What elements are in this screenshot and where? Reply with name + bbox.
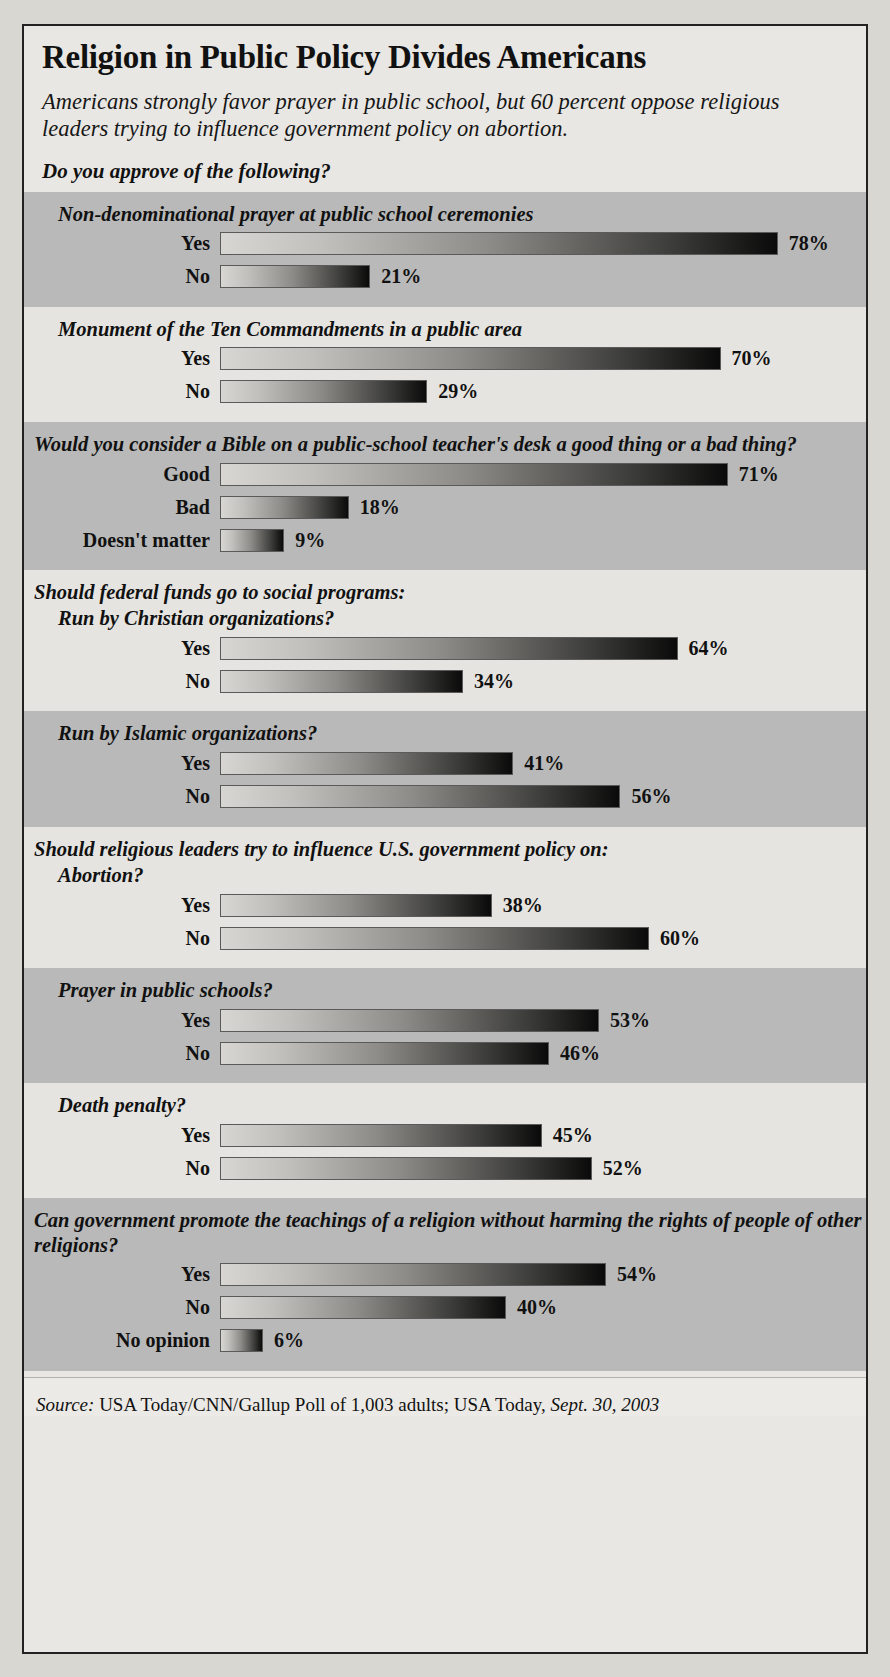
bar-category-label: Yes xyxy=(24,1009,220,1032)
source-date: Sept. 30, 2003 xyxy=(551,1394,660,1415)
bar-rows: Good71%Bad18%Doesn't matter9% xyxy=(24,459,866,555)
bar-category-label: No xyxy=(24,265,220,288)
bar-row: No56% xyxy=(24,782,866,812)
bar xyxy=(220,1263,606,1286)
bar-category-label: Bad xyxy=(24,496,220,519)
bar-row: Good71% xyxy=(24,459,866,489)
bar-row: No46% xyxy=(24,1038,866,1068)
bar-rows: Yes53%No46% xyxy=(24,1005,866,1068)
bar-value-label: 46% xyxy=(549,1042,600,1065)
chart-group: Non-denominational prayer at public scho… xyxy=(24,192,866,307)
bar-value-label: 71% xyxy=(728,463,779,486)
bar-row: No21% xyxy=(24,262,866,292)
header: Religion in Public Policy Divides Americ… xyxy=(24,26,866,184)
bar-row: No34% xyxy=(24,666,866,696)
bar xyxy=(220,637,678,660)
chart-group: Should religious leaders try to influenc… xyxy=(24,827,866,968)
bar xyxy=(220,496,349,519)
bar-value-label: 64% xyxy=(678,637,729,660)
bar-rows: Yes41%No56% xyxy=(24,749,866,812)
group-heading: Monument of the Ten Commandments in a pu… xyxy=(24,317,866,341)
group-heading: Non-denominational prayer at public scho… xyxy=(24,202,866,226)
group-heading: Can government promote the teachings of … xyxy=(24,1208,866,1256)
bar xyxy=(220,670,463,693)
bar xyxy=(220,380,427,403)
chart-group: Should federal funds go to social progra… xyxy=(24,570,866,711)
bar-row: Doesn't matter9% xyxy=(24,525,866,555)
bar xyxy=(220,894,492,917)
group-subheading: Run by Christian organizations? xyxy=(24,606,866,630)
bar xyxy=(220,1296,506,1319)
question-prompt: Do you approve of the following? xyxy=(42,159,848,184)
bar xyxy=(220,232,778,255)
bar-rows: Yes64%No34% xyxy=(24,633,866,696)
bar-value-label: 41% xyxy=(513,752,564,775)
bar-category-label: Doesn't matter xyxy=(24,529,220,552)
bar-value-label: 70% xyxy=(721,347,772,370)
bar-category-label: Yes xyxy=(24,347,220,370)
bar-row: Yes64% xyxy=(24,633,866,663)
bar xyxy=(220,1329,263,1352)
bar-value-label: 78% xyxy=(778,232,829,255)
bar-rows: Yes38%No60% xyxy=(24,890,866,953)
bar-rows: Yes54%No40%No opinion6% xyxy=(24,1260,866,1356)
bar-rows: Yes70%No29% xyxy=(24,344,866,407)
source-footer: Source: USA Today/CNN/Gallup Poll of 1,0… xyxy=(24,1377,866,1416)
bar xyxy=(220,1124,542,1147)
bar xyxy=(220,1157,592,1180)
chart-groups: Non-denominational prayer at public scho… xyxy=(24,192,866,1371)
chart-group: Prayer in public schools?Yes53%No46% xyxy=(24,968,866,1083)
source-line: Source: USA Today/CNN/Gallup Poll of 1,0… xyxy=(36,1394,866,1416)
bar xyxy=(220,752,513,775)
bar xyxy=(220,529,284,552)
bar-row: Yes53% xyxy=(24,1005,866,1035)
bar-value-label: 34% xyxy=(463,670,514,693)
bar-row: No29% xyxy=(24,377,866,407)
bar-row: Yes78% xyxy=(24,229,866,259)
bar-value-label: 29% xyxy=(427,380,478,403)
bar-row: No60% xyxy=(24,923,866,953)
bar-value-label: 56% xyxy=(620,785,671,808)
bar-value-label: 9% xyxy=(284,529,325,552)
bar-category-label: Yes xyxy=(24,894,220,917)
bar-category-label: No xyxy=(24,670,220,693)
chart-group: Would you consider a Bible on a public-s… xyxy=(24,422,866,570)
chart-group: Death penalty?Yes45%No52% xyxy=(24,1083,866,1198)
page-subtitle: Americans strongly favor prayer in publi… xyxy=(42,88,848,143)
bar-value-label: 21% xyxy=(370,265,421,288)
bar xyxy=(220,1009,599,1032)
bar-category-label: No xyxy=(24,1042,220,1065)
bar-rows: Yes78%No21% xyxy=(24,229,866,292)
bar-value-label: 45% xyxy=(542,1124,593,1147)
bar-category-label: No xyxy=(24,785,220,808)
bar-value-label: 60% xyxy=(649,927,700,950)
bar-value-label: 52% xyxy=(592,1157,643,1180)
bar-category-label: No opinion xyxy=(24,1329,220,1352)
bar-row: No52% xyxy=(24,1153,866,1183)
bar xyxy=(220,463,728,486)
bar-rows: Yes45%No52% xyxy=(24,1120,866,1183)
bar-category-label: Yes xyxy=(24,1263,220,1286)
group-heading: Prayer in public schools? xyxy=(24,978,866,1002)
bar-row: Yes70% xyxy=(24,344,866,374)
bar-category-label: Yes xyxy=(24,1124,220,1147)
bar-row: No opinion6% xyxy=(24,1326,866,1356)
bar-row: Bad18% xyxy=(24,492,866,522)
chart-group: Monument of the Ten Commandments in a pu… xyxy=(24,307,866,422)
chart-group: Run by Islamic organizations?Yes41%No56% xyxy=(24,711,866,826)
bar-row: Yes54% xyxy=(24,1260,866,1290)
bar-value-label: 53% xyxy=(599,1009,650,1032)
group-subheading: Abortion? xyxy=(24,863,866,887)
chart-group: Can government promote the teachings of … xyxy=(24,1198,866,1370)
bar-category-label: Yes xyxy=(24,232,220,255)
bar-value-label: 18% xyxy=(349,496,400,519)
group-heading: Run by Islamic organizations? xyxy=(24,721,866,745)
bar-value-label: 6% xyxy=(263,1329,304,1352)
bar xyxy=(220,1042,549,1065)
infographic-frame: Religion in Public Policy Divides Americ… xyxy=(22,24,868,1654)
source-body: USA Today/CNN/Gallup Poll of 1,003 adult… xyxy=(94,1394,550,1415)
bar-row: Yes41% xyxy=(24,749,866,779)
bar xyxy=(220,265,370,288)
group-heading: Should religious leaders try to influenc… xyxy=(24,837,866,861)
bar xyxy=(220,347,721,370)
